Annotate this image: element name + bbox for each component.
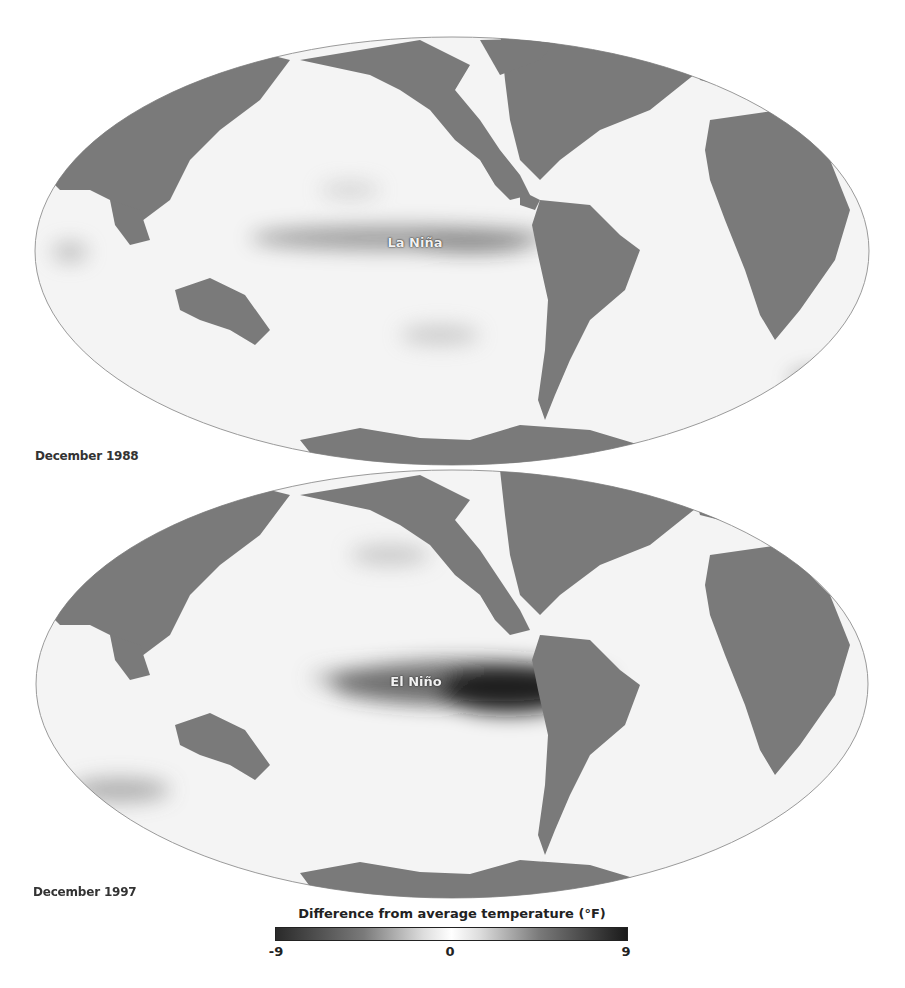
date-label-1988: December 1988 (35, 449, 138, 463)
map-panel-1988 (35, 30, 869, 465)
date-label-1997: December 1997 (33, 885, 136, 899)
map-figure (0, 0, 905, 988)
colorbar-mid-label: 0 (445, 944, 454, 959)
event-label-el-nino: El Niño (390, 674, 441, 689)
colorbar-max-label: 9 (621, 944, 630, 959)
colorbar (275, 927, 628, 941)
map-panel-1997 (36, 470, 868, 900)
colorbar-min-label: -9 (269, 944, 283, 959)
colorbar-title: Difference from average temperature (°F) (298, 906, 605, 921)
event-label-la-nina: La Niña (388, 235, 443, 250)
